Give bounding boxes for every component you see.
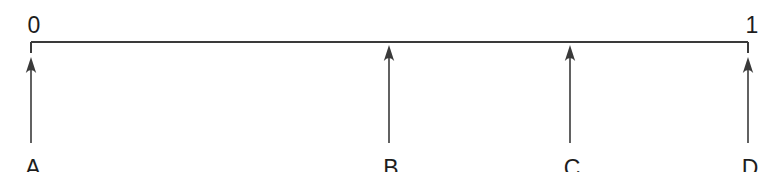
marker-label-d: D: [742, 157, 759, 172]
number-line-graphic: [0, 0, 778, 172]
number-line-figure: 0 1 A B C D: [0, 0, 778, 172]
marker-arrow-a: [26, 57, 36, 143]
marker-arrow-c: [565, 45, 575, 143]
marker-arrow-d: [743, 57, 753, 143]
marker-label-b: B: [383, 157, 398, 172]
marker-label-a: A: [25, 157, 40, 172]
axis-end-label: 1: [746, 14, 759, 37]
marker-arrow-b: [384, 45, 394, 143]
axis-start-label: 0: [28, 14, 41, 37]
marker-label-c: C: [564, 157, 581, 172]
